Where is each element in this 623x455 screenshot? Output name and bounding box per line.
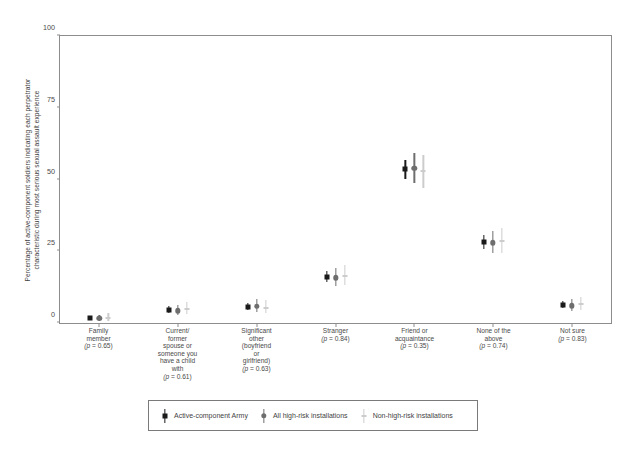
x-axis-tick-mark — [492, 323, 493, 327]
x-axis-category-label-line: Not sure — [538, 327, 608, 335]
data-point-marker — [490, 240, 495, 245]
data-point-marker — [175, 308, 180, 313]
x-axis-category-label-line: (boyfriend — [222, 342, 292, 350]
x-axis-p-value: (p = 0.83) — [538, 335, 608, 343]
x-axis-tick-mark — [571, 323, 572, 327]
data-point-marker — [333, 275, 338, 280]
data-point-marker — [88, 315, 93, 320]
x-axis-category-label: Significantother(boyfriendorgirlfriend)(… — [222, 327, 292, 373]
legend-item[interactable]: All high-risk installations — [248, 408, 348, 424]
x-axis-category-label-line: former — [143, 335, 213, 343]
y-axis-tick-label: 0 — [14, 310, 60, 319]
legend-item-label: All high-risk installations — [273, 412, 348, 419]
x-axis-category-label: Friend oracquaintance(p = 0.35) — [380, 327, 450, 350]
y-axis-tick-mark — [57, 178, 61, 179]
legend-item-label: Non-high-risk installations — [373, 412, 453, 419]
x-axis-p-value: (p = 0.61) — [143, 373, 213, 381]
data-point-marker — [245, 304, 250, 309]
plot-area: 0255075100 — [59, 35, 612, 324]
data-point-marker — [499, 240, 504, 242]
x-axis-category-label: Familymember(p = 0.65) — [64, 327, 134, 350]
x-axis-category-label-line: other — [222, 335, 292, 343]
legend-marker-icon — [158, 408, 172, 424]
x-axis-category-label-line: or — [222, 350, 292, 358]
y-axis-tick-label: 75 — [14, 94, 60, 103]
legend-marker-icon — [257, 408, 271, 424]
x-axis-category-label-line: girlfriend) — [222, 357, 292, 365]
data-point-marker — [481, 240, 486, 245]
data-point-marker — [412, 165, 417, 170]
x-axis-tick-mark — [335, 323, 336, 327]
chart-figure: Percentage of active-component soldiers … — [0, 0, 623, 455]
x-axis-category-label: Current/formerspouse orsomeone youhave a… — [143, 327, 213, 380]
x-axis-p-value: (p = 0.74) — [459, 342, 529, 350]
x-axis-tick-mark — [178, 323, 179, 327]
y-axis-tick-mark — [57, 35, 61, 36]
y-axis-tick-mark — [57, 250, 61, 251]
x-axis-category-label-line: with — [143, 365, 213, 373]
x-axis-category-label: None of theabove(p = 0.74) — [459, 327, 529, 350]
x-axis-p-value: (p = 0.84) — [301, 335, 371, 343]
y-axis-tick-label: 50 — [14, 166, 60, 175]
legend-marker-icon — [357, 408, 371, 424]
data-point-marker — [342, 275, 347, 277]
x-axis-category-label: Stranger(p = 0.84) — [301, 327, 371, 342]
y-axis-tick-mark — [57, 106, 61, 107]
x-axis-category-label-line: Friend or — [380, 327, 450, 335]
legend-item-label: Active-component Army — [174, 412, 248, 419]
legend-item[interactable]: Non-high-risk installations — [348, 408, 453, 424]
x-axis-tick-mark — [414, 323, 415, 327]
x-axis-category-label-line: Stranger — [301, 327, 371, 335]
x-axis-category-label-line: someone you — [143, 350, 213, 358]
x-axis-category-label-line: have a child — [143, 357, 213, 365]
x-axis-category-label-line: None of the — [459, 327, 529, 335]
data-point-marker — [421, 170, 426, 172]
x-axis-category-label-line: member — [64, 335, 134, 343]
chart-legend: Active-component ArmyAll high-risk insta… — [148, 400, 478, 431]
x-axis-category-label-line: Current/ — [143, 327, 213, 335]
x-axis-category-label-line: Family — [64, 327, 134, 335]
data-point-marker — [167, 307, 172, 312]
y-axis-tick-mark — [57, 322, 61, 323]
data-point-marker — [185, 308, 190, 310]
y-axis-label: Percentage of active-component soldiers … — [14, 35, 38, 325]
x-axis-p-value: (p = 0.63) — [222, 365, 292, 373]
data-point-marker — [263, 307, 268, 309]
y-axis-tick-label: 25 — [14, 238, 60, 247]
x-axis-category-label: Not sure(p = 0.83) — [538, 327, 608, 342]
x-axis-category-label-line: acquaintance — [380, 335, 450, 343]
data-point-marker — [106, 317, 111, 319]
data-point-marker — [560, 302, 565, 307]
data-point-marker — [254, 304, 259, 309]
x-axis-category-label-line: spouse or — [143, 342, 213, 350]
y-axis-tick-label: 100 — [14, 23, 60, 32]
legend-item[interactable]: Active-component Army — [149, 408, 248, 424]
x-axis-tick-mark — [256, 323, 257, 327]
data-point-marker — [97, 316, 102, 321]
x-axis-category-label-line: above — [459, 335, 529, 343]
x-axis-tick-mark — [99, 323, 100, 327]
data-point-marker — [403, 167, 408, 172]
x-axis-category-label-line: Significant — [222, 327, 292, 335]
data-point-marker — [578, 303, 583, 305]
data-point-marker — [324, 274, 329, 279]
data-point-marker — [569, 303, 574, 308]
x-axis-p-value: (p = 0.35) — [380, 342, 450, 350]
x-axis-p-value: (p = 0.65) — [64, 342, 134, 350]
